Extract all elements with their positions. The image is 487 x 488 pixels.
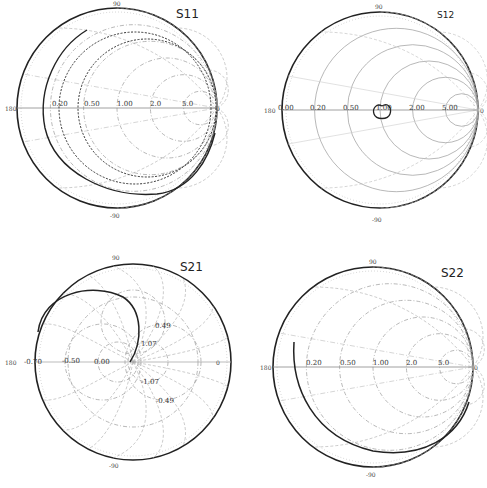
angle-label-0: 0 [480, 107, 484, 114]
angle-label-0: 0 [216, 105, 220, 112]
angle-label-minus90: -90 [109, 462, 119, 469]
value-label-1-07: 1.07 [141, 340, 157, 348]
r-label-1-00: 1.00 [117, 100, 133, 108]
value-label-minus-1-07: -1.07 [141, 378, 159, 386]
angle-label-0: 0 [474, 364, 478, 371]
chart-title-s11: S11 [176, 7, 199, 21]
r-label-0-50: 0.50 [343, 104, 359, 112]
value-label-0-00: 0.00 [94, 358, 110, 366]
s21-trace [38, 290, 139, 362]
r-label-2-0: 2.0 [150, 100, 161, 108]
value-label-0-49: 0.49 [155, 322, 171, 330]
r-label-0-20: 0.20 [52, 100, 68, 108]
angle-label-180: 180 [5, 105, 17, 112]
r-label-1-00: 1.00 [373, 359, 389, 367]
r-label-1-00: 1.00 [376, 104, 392, 112]
angle-label-minus90: -90 [372, 216, 382, 223]
angle-label-90: 90 [112, 254, 120, 261]
smith-chart-s12: S12 90 -90 180 0 0.00 0.20 0.50 1.00 2.0… [244, 0, 487, 244]
angle-label-minus90: -90 [366, 471, 376, 478]
angle-label-180: 180 [5, 359, 17, 366]
angle-label-90: 90 [369, 258, 377, 265]
chart-title-s12: S12 [437, 10, 454, 20]
chart-title-s22: S22 [441, 266, 464, 280]
angle-label-minus90: -90 [110, 212, 120, 219]
smith-chart-s21: S21 90 -90 180 0 -0.70 -0.50 0.00 0.49 1… [0, 244, 244, 488]
angle-label-180: 180 [260, 364, 272, 371]
r-label-0-50: 0.50 [340, 359, 356, 367]
r-label-5-00: 5.00 [442, 104, 458, 112]
smith-chart-s11: S11 90 -90 180 0 0.20 0.50 1.00 2.0 5.0 [0, 0, 244, 244]
angle-label-90: 90 [375, 3, 383, 10]
value-label-minus-0-70: -0.70 [24, 358, 42, 366]
chart-title-s21: S21 [180, 260, 203, 274]
r-label-2-0: 2.0 [406, 359, 417, 367]
r-label-5-0: 5.0 [438, 359, 449, 367]
r-label-0-50: 0.50 [84, 100, 100, 108]
value-label-minus-0-49: -0.49 [156, 397, 174, 405]
value-label-minus-0-50: -0.50 [62, 357, 80, 365]
r-label-0-20: 0.20 [310, 104, 326, 112]
r-label-0-20: 0.20 [306, 359, 322, 367]
angle-label-0: 0 [216, 359, 220, 366]
r-label-0-00: 0.00 [278, 104, 294, 112]
angle-label-180: 180 [264, 107, 276, 114]
smith-chart-s22: S22 90 -90 180 0 0.20 0.50 1.00 2.0 5.0 [244, 244, 487, 488]
r-label-2-00: 2.00 [409, 104, 425, 112]
r-label-5-0: 5.0 [182, 100, 193, 108]
angle-label-90: 90 [113, 0, 121, 7]
